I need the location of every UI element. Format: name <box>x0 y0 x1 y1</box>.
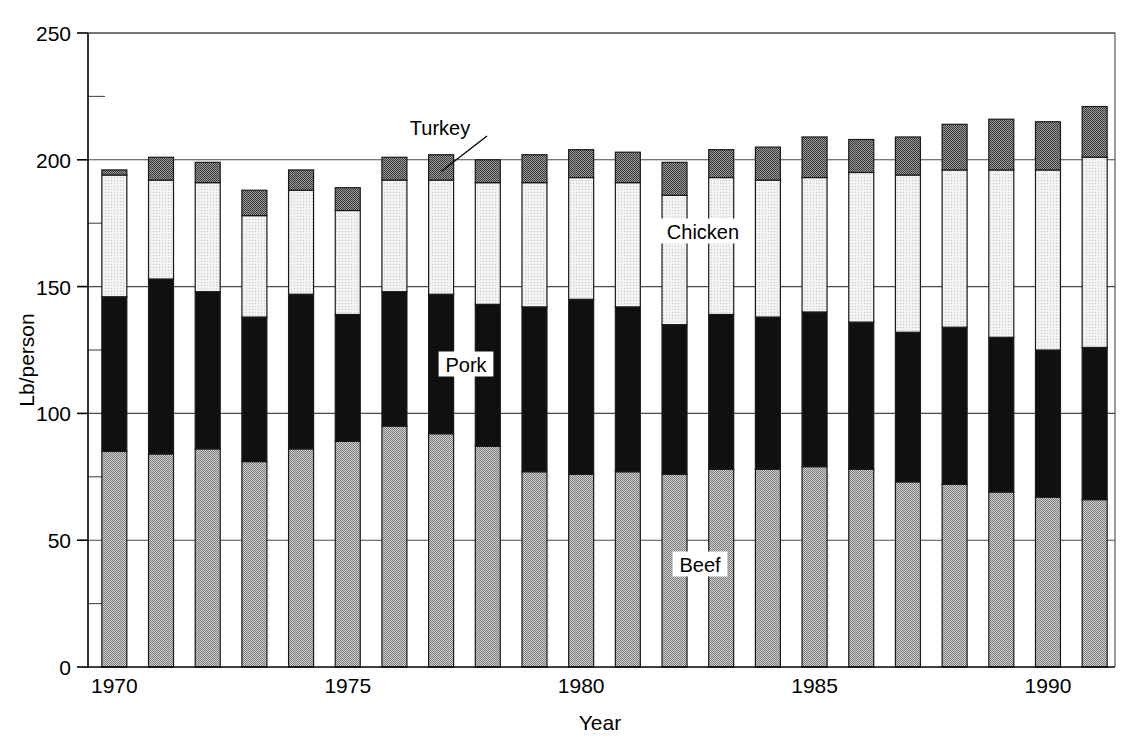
bar-segment-pork-1989 <box>989 337 1014 492</box>
bar-1979 <box>522 155 547 667</box>
bar-segment-chicken-1980 <box>569 178 594 300</box>
bar-segment-pork-1976 <box>382 292 407 426</box>
bar-1986 <box>849 140 874 667</box>
bar-segment-chicken-1982 <box>662 195 687 324</box>
annotation-chicken: Chicken <box>659 219 747 244</box>
bar-segment-pork-1975 <box>335 314 360 441</box>
svg-text:Beef: Beef <box>679 554 721 576</box>
bar-1975 <box>335 188 360 667</box>
bar-segment-chicken-1986 <box>849 172 874 322</box>
bar-segment-chicken-1991 <box>1082 157 1107 347</box>
x-tick-label-1990: 1990 <box>1025 674 1072 697</box>
bar-segment-chicken-1983 <box>709 178 734 315</box>
bar-segment-beef-1985 <box>802 467 827 667</box>
bar-segment-chicken-1975 <box>335 211 360 315</box>
bar-segment-beef-1970 <box>102 451 127 667</box>
x-tick-label-1980: 1980 <box>558 674 605 697</box>
bar-segment-beef-1972 <box>195 449 220 667</box>
annotation-turkey: Turkey <box>401 115 478 140</box>
bar-1990 <box>1035 122 1060 667</box>
bar-segment-beef-1986 <box>849 469 874 667</box>
bar-segment-turkey-1988 <box>942 124 967 170</box>
bar-segment-chicken-1976 <box>382 180 407 292</box>
bar-1985 <box>802 137 827 667</box>
bar-1984 <box>755 147 780 667</box>
y-axis-tick-labels: 050100150200250 <box>36 22 71 679</box>
bar-segment-beef-1990 <box>1035 497 1060 667</box>
bar-segment-pork-1971 <box>149 279 174 454</box>
bar-segment-pork-1983 <box>709 314 734 469</box>
y-tick-label-150: 150 <box>36 276 71 299</box>
bar-1976 <box>382 157 407 667</box>
bar-1981 <box>615 152 640 667</box>
bar-segment-turkey-1972 <box>195 162 220 182</box>
bar-segment-pork-1981 <box>615 307 640 472</box>
bar-segment-chicken-1987 <box>895 175 920 332</box>
bar-segment-chicken-1977 <box>429 180 454 294</box>
bar-segment-beef-1987 <box>895 482 920 667</box>
bar-segment-turkey-1976 <box>382 157 407 180</box>
bar-segment-beef-1981 <box>615 472 640 667</box>
bars-layer <box>102 107 1107 667</box>
bar-1989 <box>989 119 1014 667</box>
y-tick-label-0: 0 <box>59 656 71 679</box>
bar-segment-chicken-1984 <box>755 180 780 317</box>
bar-segment-turkey-1979 <box>522 155 547 183</box>
bar-1977 <box>429 155 454 667</box>
bar-segment-turkey-1971 <box>149 157 174 180</box>
chart-canvas: 050100150200250 19701975198019851990 Tur… <box>0 0 1144 744</box>
bar-segment-turkey-1980 <box>569 150 594 178</box>
bar-segment-chicken-1971 <box>149 180 174 279</box>
bar-segment-chicken-1974 <box>289 190 314 294</box>
bar-1988 <box>942 124 967 667</box>
bar-segment-beef-1979 <box>522 472 547 667</box>
bar-segment-chicken-1978 <box>475 183 500 305</box>
bar-segment-turkey-1985 <box>802 137 827 178</box>
bar-segment-pork-1973 <box>242 317 267 462</box>
bar-segment-turkey-1987 <box>895 137 920 175</box>
bar-segment-turkey-1989 <box>989 119 1014 170</box>
bar-segment-pork-1980 <box>569 299 594 474</box>
bar-segment-turkey-1991 <box>1082 107 1107 158</box>
bar-segment-chicken-1970 <box>102 175 127 297</box>
svg-text:Pork: Pork <box>445 354 487 376</box>
x-axis-title: Year <box>579 711 621 734</box>
bar-segment-beef-1978 <box>475 446 500 667</box>
bar-1974 <box>289 170 314 667</box>
x-axis-tick-labels: 19701975198019851990 <box>91 674 1071 697</box>
svg-text:Turkey: Turkey <box>410 117 470 139</box>
y-tick-label-250: 250 <box>36 22 71 45</box>
bar-segment-pork-1972 <box>195 292 220 449</box>
bar-segment-pork-1974 <box>289 294 314 449</box>
bar-segment-pork-1986 <box>849 322 874 469</box>
y-tick-label-100: 100 <box>36 402 71 425</box>
svg-text:Chicken: Chicken <box>667 221 739 243</box>
bar-segment-pork-1979 <box>522 307 547 472</box>
bar-segment-beef-1984 <box>755 469 780 667</box>
bar-segment-beef-1988 <box>942 484 967 667</box>
annotation-pork: Pork <box>439 352 494 377</box>
bar-segment-beef-1975 <box>335 441 360 667</box>
bar-segment-beef-1977 <box>429 434 454 667</box>
y-tick-label-50: 50 <box>48 529 71 552</box>
bar-1991 <box>1082 107 1107 667</box>
annotation-beef: Beef <box>673 552 728 577</box>
bar-segment-chicken-1988 <box>942 170 967 327</box>
y-tick-label-200: 200 <box>36 149 71 172</box>
bar-segment-turkey-1982 <box>662 162 687 195</box>
bar-1970 <box>102 170 127 667</box>
bar-segment-pork-1984 <box>755 317 780 469</box>
bar-1987 <box>895 137 920 667</box>
bar-segment-pork-1985 <box>802 312 827 467</box>
x-tick-label-1970: 1970 <box>91 674 138 697</box>
bar-segment-turkey-1978 <box>475 160 500 183</box>
bar-segment-chicken-1990 <box>1035 170 1060 350</box>
bar-segment-turkey-1973 <box>242 190 267 215</box>
bar-segment-chicken-1973 <box>242 216 267 317</box>
bar-segment-turkey-1983 <box>709 150 734 178</box>
bar-segment-turkey-1974 <box>289 170 314 190</box>
bar-segment-turkey-1975 <box>335 188 360 211</box>
bar-segment-turkey-1984 <box>755 147 780 180</box>
y-axis-title: Lb/person <box>15 313 38 406</box>
bar-segment-pork-1987 <box>895 332 920 482</box>
